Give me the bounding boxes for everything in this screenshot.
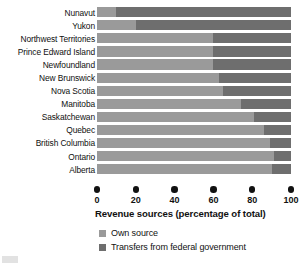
category-label: Quebec [66,126,95,135]
category-label: New Brunswick [39,74,95,83]
bar-segment-own-source[interactable] [97,99,241,109]
bar-segment-transfers[interactable] [241,99,291,109]
bar-segment-transfers[interactable] [272,164,291,174]
x-axis-tick-mark [94,186,101,193]
bar-track [97,46,291,56]
x-axis-tick-label: 40 [170,195,180,205]
x-axis-tick-label: 20 [131,195,141,205]
chart-row: Yukon [0,19,308,32]
plot-area: NunavutYukonNorthwest TerritoriesPrince … [0,6,308,176]
bar-track [97,73,291,83]
x-axis-tick-mark [171,186,178,193]
bar-segment-transfers[interactable] [116,7,291,17]
page-edge-artifact [2,256,18,263]
bar-segment-own-source[interactable] [97,59,213,69]
bar-segment-own-source[interactable] [97,125,264,135]
bar-segment-own-source[interactable] [97,46,213,56]
bar-track [97,112,291,122]
bar-track [97,7,291,17]
bar-segment-own-source[interactable] [97,138,270,148]
x-axis-tick-label: 80 [247,195,257,205]
chart-row: New Brunswick [0,71,308,84]
legend-swatch-transfers [99,244,106,251]
bar-track [97,151,291,161]
x-axis-tick-label: 0 [94,195,99,205]
category-label: Manitoba [61,100,95,109]
x-axis-tick-label: 100 [283,195,298,205]
x-axis: 020406080100 [0,183,308,209]
chart-row: Saskatchewan [0,111,308,124]
bar-segment-transfers[interactable] [270,138,291,148]
bar-segment-own-source[interactable] [97,151,274,161]
bar-segment-transfers[interactable] [136,20,291,30]
x-axis-tick-mark [210,186,217,193]
bar-segment-transfers[interactable] [219,73,291,83]
category-label: Newfoundland [43,60,95,69]
x-axis-tick-label: 60 [208,195,218,205]
chart-row: Ontario [0,150,308,163]
chart-row: Quebec [0,124,308,137]
category-label: Prince Edward Island [18,47,95,56]
category-label: Saskatchewan [42,113,95,122]
category-label: Nunavut [65,8,96,17]
category-label: Ontario [68,152,95,161]
bar-segment-transfers[interactable] [254,112,291,122]
stacked-bar-chart: NunavutYukonNorthwest TerritoriesPrince … [0,0,308,265]
chart-legend: Own source Transfers from federal govern… [99,226,246,254]
x-axis-tick-mark [133,186,140,193]
x-axis-title: Revenue sources (percentage of total) [95,208,266,219]
legend-label-own-source: Own source [111,228,158,238]
bar-segment-transfers[interactable] [213,59,291,69]
legend-item-own-source[interactable]: Own source [99,226,246,240]
bar-segment-transfers[interactable] [223,86,291,96]
bar-segment-transfers[interactable] [264,125,291,135]
bar-segment-own-source[interactable] [97,86,223,96]
chart-row: Alberta [0,163,308,176]
bar-track [97,99,291,109]
legend-label-transfers: Transfers from federal government [111,242,246,252]
x-axis-tick-mark [288,186,295,193]
bar-track [97,59,291,69]
x-axis-tick-mark [249,186,256,193]
chart-row: Manitoba [0,98,308,111]
chart-row: British Columbia [0,137,308,150]
chart-row: Northwest Territories [0,32,308,45]
bar-segment-transfers[interactable] [274,151,291,161]
category-label: Nova Scotia [51,87,95,96]
bar-track [97,164,291,174]
bar-track [97,125,291,135]
bar-segment-own-source[interactable] [97,73,219,83]
legend-item-transfers[interactable]: Transfers from federal government [99,240,246,254]
bar-segment-own-source[interactable] [97,20,136,30]
bar-segment-own-source[interactable] [97,112,254,122]
category-label: Northwest Territories [20,34,95,43]
bar-track [97,86,291,96]
bar-segment-own-source[interactable] [97,164,272,174]
category-label: Yukon [72,21,95,30]
bar-track [97,20,291,30]
bar-segment-own-source[interactable] [97,7,116,17]
bar-segment-transfers[interactable] [213,33,291,43]
legend-swatch-own-source [99,230,106,237]
bar-track [97,33,291,43]
chart-row: Prince Edward Island [0,45,308,58]
chart-row: Newfoundland [0,58,308,71]
chart-row: Nunavut [0,6,308,19]
category-label: British Columbia [36,139,95,148]
bar-segment-own-source[interactable] [97,33,213,43]
chart-row: Nova Scotia [0,85,308,98]
bar-track [97,138,291,148]
category-label: Alberta [69,165,95,174]
bar-segment-transfers[interactable] [213,46,291,56]
